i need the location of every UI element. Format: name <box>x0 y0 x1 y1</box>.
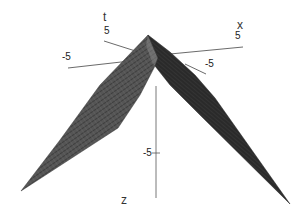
x-tick-neg5: -5 <box>205 59 214 69</box>
surface-plot <box>0 0 306 221</box>
t-axis-label: t <box>103 11 106 23</box>
t-tick-neg5: -5 <box>62 52 71 62</box>
z-tick-neg5: -5 <box>143 148 152 158</box>
surface-left-face <box>21 35 158 191</box>
z-axis-label: z <box>121 194 127 206</box>
t-tick-5: 5 <box>104 26 110 36</box>
x-tick-5: 5 <box>235 31 241 41</box>
z-axis <box>152 86 160 198</box>
surface-right-face <box>148 35 290 204</box>
